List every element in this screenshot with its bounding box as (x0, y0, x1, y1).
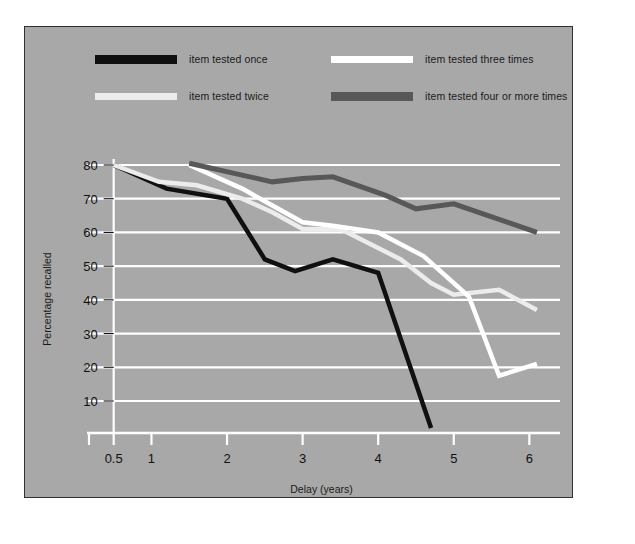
x-tick-label: 0.5 (105, 451, 123, 466)
y-tick-label: 20 (83, 360, 97, 375)
data-series-line (114, 165, 537, 310)
y-tick-label: 70 (83, 192, 97, 207)
x-tick-label: 1 (148, 451, 155, 466)
x-axis-title: Delay (years) (290, 483, 352, 495)
x-tick-label: 4 (375, 451, 382, 466)
line-chart-plot: 1020304050607080Percentage recalled0.512… (25, 27, 574, 499)
figure-canvas: item tested onceitem tested three timesi… (0, 0, 635, 544)
y-tick-label: 50 (83, 259, 97, 274)
x-tick-label: 6 (526, 451, 533, 466)
y-tick-label: 60 (83, 225, 97, 240)
y-tick-label: 40 (83, 293, 97, 308)
y-axis-title: Percentage recalled (41, 252, 53, 346)
x-tick-label: 2 (223, 451, 230, 466)
y-tick-label: 80 (83, 158, 97, 173)
x-tick-label: 5 (450, 451, 457, 466)
y-tick-label: 10 (83, 394, 97, 409)
y-tick-label: 30 (83, 327, 97, 342)
x-tick-label: 3 (299, 451, 306, 466)
chart-panel: item tested onceitem tested three timesi… (24, 26, 573, 498)
